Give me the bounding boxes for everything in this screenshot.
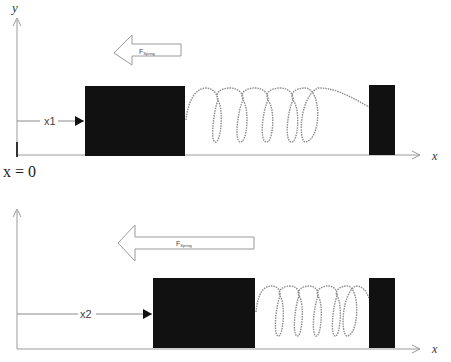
- x-axis-label: x: [431, 149, 438, 163]
- force-label-sub-bottom: Spring: [180, 243, 192, 248]
- panel-top: y x x = 0 x1 FSpring: [3, 0, 438, 180]
- spring-bottom: [256, 286, 369, 336]
- force-label-sub-top: Spring: [143, 51, 155, 56]
- spring-force-arrow-top: [114, 35, 181, 65]
- y-axis-label: y: [10, 0, 18, 15]
- mass-block-top: [85, 86, 185, 156]
- diagram-canvas: y x x = 0 x1 FSpring x x2: [0, 0, 451, 362]
- panel-bottom: x x2 FSpring: [13, 209, 438, 356]
- x2-label: x2: [80, 308, 92, 320]
- mass-block-bottom: [153, 278, 255, 348]
- spring-top: [186, 88, 369, 142]
- x-axis-label-bottom: x: [431, 342, 438, 356]
- origin-label: x = 0: [3, 163, 36, 180]
- wall-top: [369, 85, 395, 155]
- x1-label: x1: [44, 115, 56, 127]
- wall-bottom: [369, 278, 395, 348]
